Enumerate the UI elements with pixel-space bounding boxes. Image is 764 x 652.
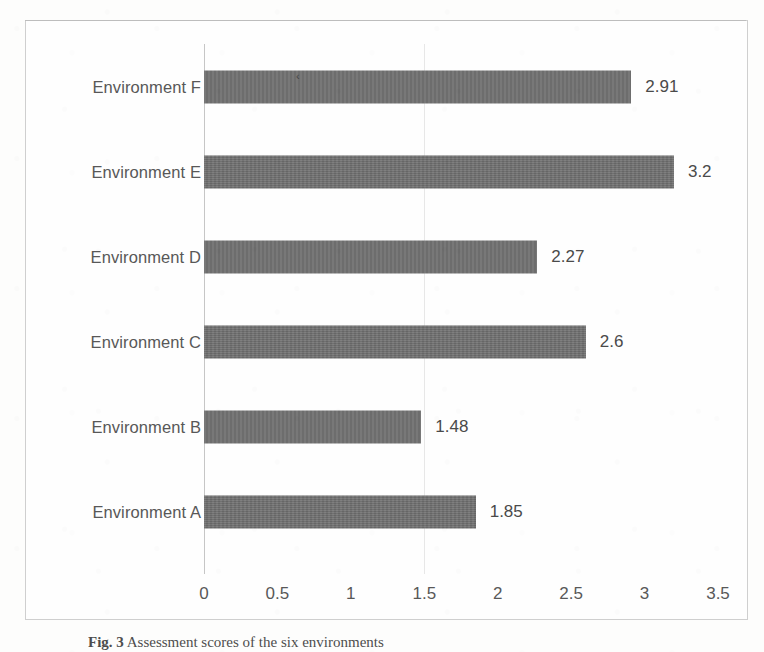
chart-plot-area: Environment F2.91‹Environment E3.2Enviro…: [26, 21, 749, 621]
chart-frame: Environment F2.91‹Environment E3.2Enviro…: [25, 20, 748, 620]
bar[interactable]: [204, 70, 631, 103]
bar-value-label: 1.48: [435, 417, 468, 437]
bar-value-label: 2.91: [645, 77, 678, 97]
bar-value-label: 1.85: [490, 502, 523, 522]
category-label: Environment D: [91, 247, 201, 266]
x-tick-label: 2.5: [559, 584, 583, 604]
figure-caption-label: Fig. 3: [88, 634, 124, 650]
bar-row: Environment E3.2: [26, 129, 749, 214]
bar-value-label: 2.6: [600, 332, 624, 352]
bar-row: Environment C2.6: [26, 299, 749, 384]
x-tick-label: 1.5: [412, 584, 436, 604]
bar[interactable]: [204, 410, 421, 443]
bar-value-label: 2.27: [551, 247, 584, 267]
category-label: Environment B: [91, 417, 201, 436]
bar-row: Environment A1.85: [26, 469, 749, 554]
bar-row: Environment D2.27: [26, 214, 749, 299]
x-tick-label: 0: [199, 584, 208, 604]
figure-caption-text: Assessment scores of the six environment…: [127, 634, 384, 650]
category-label: Environment A: [92, 502, 201, 521]
x-axis-tick-labels: 00.511.522.533.5: [26, 584, 749, 614]
x-tick-label: 3: [640, 584, 649, 604]
scanned-page-background: Environment F2.91‹Environment E3.2Enviro…: [0, 0, 764, 652]
category-label: Environment C: [91, 332, 201, 351]
x-tick-label: 1: [346, 584, 355, 604]
bar[interactable]: [204, 495, 476, 528]
bar[interactable]: [204, 155, 674, 188]
category-label: Environment F: [92, 77, 201, 96]
x-tick-label: 2: [493, 584, 502, 604]
x-tick-label: 0.5: [266, 584, 290, 604]
bar-value-label: 3.2: [688, 162, 712, 182]
category-label: Environment E: [91, 162, 201, 181]
bar-row: Environment F2.91‹: [26, 44, 749, 129]
bar[interactable]: [204, 240, 537, 273]
bar[interactable]: [204, 325, 586, 358]
scan-artifact-speck: ‹: [296, 72, 303, 80]
bar-row: Environment B1.48: [26, 384, 749, 469]
x-tick-label: 3.5: [706, 584, 730, 604]
figure-caption: Fig. 3 Assessment scores of the six envi…: [88, 634, 688, 652]
